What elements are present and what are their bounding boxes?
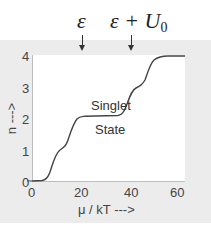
state-label: State [95,123,125,136]
singlet-label: Singlet [91,99,131,112]
